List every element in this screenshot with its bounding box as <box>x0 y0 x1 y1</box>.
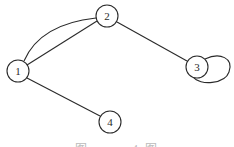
node-label: 4 <box>107 116 113 128</box>
edge-1-2-straight <box>27 21 97 65</box>
edge-1-4 <box>27 78 100 116</box>
node-3: 3 <box>186 56 208 78</box>
figure-caption: 图 … … 4 图 <box>0 139 234 147</box>
node-label: 3 <box>194 61 200 73</box>
node-label: 2 <box>104 10 110 22</box>
node-label: 1 <box>15 65 21 77</box>
edge-2-3 <box>117 22 187 61</box>
node-1: 1 <box>7 60 29 82</box>
graph-diagram: 1 2 3 4 <box>0 0 234 147</box>
edge-1-2-curved <box>24 18 96 61</box>
node-4: 4 <box>99 111 121 133</box>
node-2: 2 <box>96 5 118 27</box>
